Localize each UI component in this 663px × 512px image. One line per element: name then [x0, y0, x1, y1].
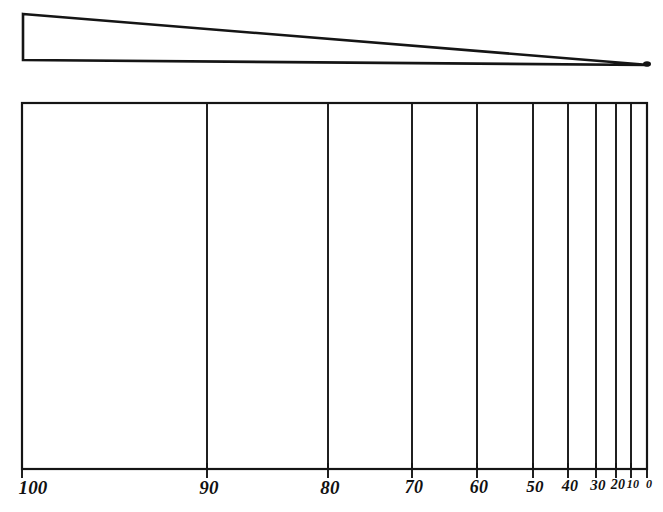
tapered-wedge [23, 14, 651, 67]
axis-label-100: 100 [18, 478, 47, 497]
axis-label-20: 20 [611, 478, 625, 492]
panel-border [22, 103, 647, 469]
axis-label-0: 0 [646, 478, 652, 490]
axis-label-10: 10 [627, 478, 639, 490]
scale-diagram-canvas [0, 0, 663, 512]
axis-label-50: 50 [526, 478, 543, 495]
axis-label-80: 80 [320, 478, 339, 497]
axis-tick-marks [22, 463, 647, 478]
wedge-apex-blob [643, 61, 651, 67]
axis-label-30: 30 [590, 478, 605, 493]
axis-label-90: 90 [199, 478, 218, 497]
figure-root: 1009080706050403020100 [0, 0, 663, 512]
axis-label-60: 60 [470, 478, 488, 496]
axis-label-40: 40 [562, 478, 578, 494]
wedge-outline [23, 14, 649, 65]
axis-label-70: 70 [405, 478, 423, 496]
graduated-panel [22, 103, 647, 469]
